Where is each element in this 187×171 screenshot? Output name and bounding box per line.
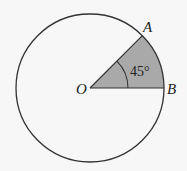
label-a: A	[142, 19, 153, 35]
label-b: B	[167, 81, 176, 97]
circle-diagram: 45° O A B	[0, 0, 187, 171]
label-o: O	[76, 81, 87, 97]
angle-label: 45°	[130, 64, 150, 79]
